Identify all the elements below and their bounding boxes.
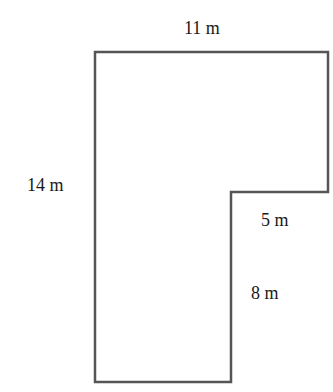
l-shape-figure (0, 0, 333, 392)
label-notch-width: 5 m (261, 210, 289, 231)
label-top-width: 11 m (184, 18, 220, 39)
label-left-height: 14 m (27, 175, 64, 196)
l-shape-outline (95, 52, 328, 382)
label-notch-height: 8 m (251, 283, 279, 304)
